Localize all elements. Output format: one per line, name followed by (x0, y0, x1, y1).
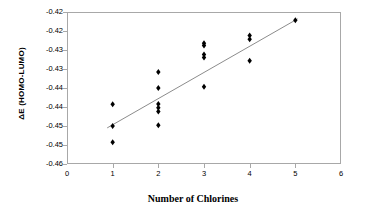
data-point-marker (202, 55, 206, 61)
data-layer (0, 0, 386, 218)
data-points (110, 17, 297, 145)
data-point-marker (293, 17, 297, 23)
data-point-marker (247, 36, 251, 42)
data-point-marker (156, 122, 160, 128)
data-point-marker (202, 84, 206, 90)
data-point-marker (110, 101, 114, 107)
data-point-marker (247, 58, 251, 64)
trend-line (107, 19, 297, 128)
data-point-marker (110, 139, 114, 145)
x-axis-title: Number of Chlorines (0, 193, 386, 204)
data-point-marker (156, 69, 160, 75)
data-point-marker (156, 85, 160, 91)
chart-container: ΔE (HOMO-LUMO) -0.42-0.42-0.43-0.43-0.44… (0, 0, 386, 218)
data-point-marker (156, 109, 160, 115)
